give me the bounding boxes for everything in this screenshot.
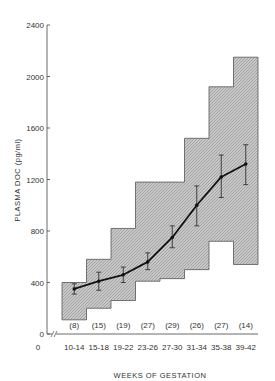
data-point [244,162,248,166]
data-point [219,175,223,179]
n-label: (8) [69,321,79,330]
y-tick-label: 1200 [26,176,44,185]
y-tick-label: 1600 [26,124,44,133]
data-point [72,287,76,291]
x-tick-label: 27-30 [162,343,183,352]
y-tick-label: 0 [40,330,45,339]
chart: 04008001200160020002400 (8)(15)(19)(27)(… [0,0,275,381]
n-label: (19) [116,321,131,330]
x-tick-label: 23-26 [138,343,159,352]
x-tick-label: 10-14 [64,343,85,352]
x-tick-label: 39-42 [236,343,257,352]
y-tick-label: 2000 [26,73,44,82]
range-band-polygon [62,57,258,320]
x-tick-label: 31-34 [187,343,208,352]
range-band [62,57,258,320]
y-tick-label: 800 [31,227,45,236]
data-point [170,236,174,240]
x-tick-label: 15-18 [89,343,110,352]
n-label: (15) [92,321,107,330]
data-point [146,260,150,264]
n-label: (29) [165,321,180,330]
y-tick-label: 2400 [26,21,44,30]
y-axis-title: PLASMA DOC (pg/ml) [13,138,22,221]
x-tick-label: 19-22 [113,343,134,352]
x-axis-title: WEEKS OF GESTATION [114,371,207,380]
x-origin-label: 0 [36,343,41,352]
y-tick-label: 400 [31,279,45,288]
n-label: (26) [190,321,205,330]
data-point [97,279,101,283]
n-label: (27) [214,321,229,330]
n-label: (14) [239,321,254,330]
data-point [121,273,125,277]
data-point [195,203,199,207]
n-label: (27) [141,321,156,330]
x-tick-label: 35-38 [211,343,232,352]
